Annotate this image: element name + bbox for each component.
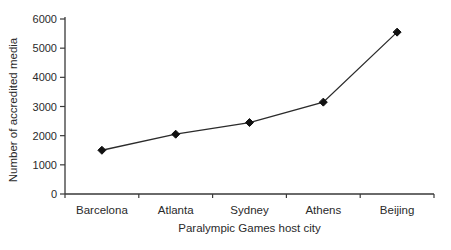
x-category-label: Sydney (230, 204, 269, 216)
y-tick-label: 5000 (33, 42, 57, 54)
x-axis-title: Paralympic Games host city (65, 222, 434, 234)
y-tick-label: 3000 (33, 101, 57, 113)
paralympic-media-line-chart: 0100020003000400050006000BarcelonaAtlant… (0, 0, 451, 250)
data-point-marker (172, 130, 180, 138)
data-point-marker (98, 146, 106, 154)
series-line (102, 32, 397, 150)
x-category-label: Athens (305, 204, 341, 216)
x-category-label: Beijing (380, 204, 415, 216)
y-tick-label: 0 (51, 188, 57, 200)
y-tick-label: 2000 (33, 130, 57, 142)
axis-lines (65, 17, 434, 194)
data-point-marker (246, 119, 254, 127)
x-category-label: Atlanta (158, 204, 194, 216)
y-axis-title: Number of accredited media (7, 38, 19, 182)
y-tick-label: 1000 (33, 159, 57, 171)
y-tick-label: 6000 (33, 13, 57, 25)
y-tick-label: 4000 (33, 71, 57, 83)
x-category-label: Barcelona (76, 204, 128, 216)
chart-canvas: 0100020003000400050006000BarcelonaAtlant… (0, 0, 451, 250)
